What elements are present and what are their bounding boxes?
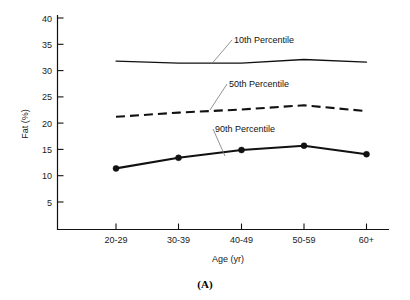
fat-percentile-line-chart: 40 35 30 25 20 15 10 5 20-29 30-39 40-49… bbox=[0, 0, 410, 300]
annotation-90th-percentile: 90th Percentile bbox=[215, 124, 275, 134]
data-point-marker bbox=[239, 147, 245, 153]
axis-lines bbox=[58, 15, 390, 230]
data-point-marker bbox=[301, 143, 307, 149]
series-markers-90th-percentile bbox=[113, 143, 370, 172]
y-axis-tick-label-25: 25 bbox=[42, 92, 52, 102]
y-axis-tick-label-20: 20 bbox=[42, 119, 52, 129]
annotation-leaders bbox=[210, 40, 232, 156]
y-axis-tick-label-40: 40 bbox=[42, 14, 52, 24]
y-axis-tick-label-5: 5 bbox=[47, 198, 52, 208]
series-line-50th-percentile bbox=[116, 105, 367, 117]
x-axis-tick-label-3: 50-59 bbox=[292, 235, 315, 245]
x-tick-marks bbox=[116, 224, 367, 230]
chart-figure: 40 35 30 25 20 15 10 5 20-29 30-39 40-49… bbox=[0, 0, 410, 300]
series-line-10th-percentile bbox=[116, 60, 367, 64]
x-axis-tick-label-0: 20-29 bbox=[104, 235, 127, 245]
y-axis-tick-label-35: 35 bbox=[42, 40, 52, 50]
data-point-marker bbox=[364, 151, 370, 157]
y-tick-marks bbox=[58, 18, 64, 202]
y-axis-title: Fat (%) bbox=[20, 109, 30, 139]
data-point-marker bbox=[113, 165, 119, 171]
annotation-50th-percentile: 50th Percentile bbox=[229, 79, 289, 89]
data-point-marker bbox=[176, 155, 182, 161]
annotation-10th-percentile: 10th Percentile bbox=[234, 35, 294, 45]
x-axis-tick-label-2: 40-49 bbox=[230, 235, 253, 245]
y-axis-tick-label-30: 30 bbox=[42, 66, 52, 76]
x-axis-tick-label-1: 30-39 bbox=[167, 235, 190, 245]
y-axis-tick-label-15: 15 bbox=[42, 145, 52, 155]
x-axis-tick-label-4: 60+ bbox=[359, 235, 374, 245]
x-axis-title: Age (yr) bbox=[212, 254, 244, 264]
y-axis-tick-label-10: 10 bbox=[42, 171, 52, 181]
panel-label: (A) bbox=[197, 278, 213, 291]
